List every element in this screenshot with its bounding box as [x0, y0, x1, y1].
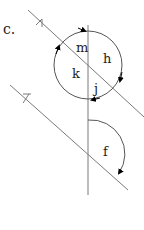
- arrow-left-icon: [56, 46, 59, 54]
- angle-label-f: f: [103, 144, 109, 159]
- problem-label: c.: [3, 21, 15, 37]
- angle-label-h: h: [103, 51, 112, 66]
- angle-label-j: j: [92, 81, 98, 96]
- lower-parallel-marker-icon: [23, 94, 31, 103]
- parallel-lines-transversal-diagram: c. m h k j f: [0, 0, 144, 230]
- angle-label-m: m: [76, 40, 88, 55]
- angle-label-k: k: [72, 66, 80, 81]
- lower-parallel-line: [10, 85, 128, 190]
- arrow-top-icon: [78, 28, 85, 31]
- upper-parallel-line: [28, 10, 144, 117]
